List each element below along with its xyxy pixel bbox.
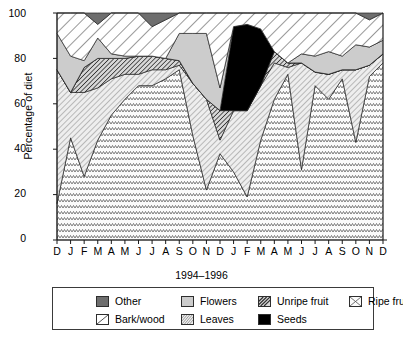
legend-swatch-ripe-fruit [349,296,362,307]
x-tick-label-17: M [281,246,295,257]
x-tick-label-12: D [213,246,227,257]
x-tick-label-21: S [335,246,349,257]
x-tick-label-19: J [308,246,322,257]
legend-item-leaves: Leaves [181,312,234,326]
legend-label-ripe-fruit: Ripe fruit [368,296,403,307]
x-tick-label-6: J [132,246,146,257]
legend-item-unripe-fruit: Unripe fruit [258,294,328,308]
x-tick-label-4: A [104,246,118,257]
legend-label-other: Other [115,296,141,307]
legend-item-ripe-fruit: Ripe fruit [349,294,403,308]
x-tick-label-16: A [267,246,281,257]
figure-stacked-area-chart: Percentage of diet 100 80 60 40 20 0 [0,0,403,338]
legend-swatch-unripe-fruit [258,296,271,307]
x-tick-label-8: A [159,246,173,257]
x-tick-label-20: A [322,246,336,257]
legend-swatch-other [96,296,109,307]
x-tick-label-0: D [50,246,64,257]
x-tick-label-10: O [186,246,200,257]
legend-label-unripe-fruit: Unripe fruit [277,296,328,307]
legend-label-seeds: Seeds [277,314,307,325]
legend-swatch-leaves [181,314,194,325]
x-tick-label-14: F [240,246,254,257]
x-tick-label-5: M [118,246,132,257]
x-tick-label-18: J [295,246,309,257]
x-tick-label-23: N [362,246,376,257]
x-tick-label-2: F [77,246,91,257]
legend-swatch-bark-wood [96,314,109,325]
x-tick-label-15: M [254,246,268,257]
legend-item-flowers: Flowers [181,294,237,308]
legend-label-leaves: Leaves [200,314,234,325]
x-tick-label-1: J [64,246,78,257]
legend-label-bark-wood: Bark/wood [115,314,165,325]
x-tick-label-13: J [227,246,241,257]
legend-item-seeds: Seeds [258,312,307,326]
x-tick-label-3: M [91,246,105,257]
legend-item-bark-wood: Bark/wood [96,312,165,326]
legend-item-other: Other [96,294,141,308]
x-axis-title: 1994–1996 [0,269,403,281]
legend-swatch-flowers [181,296,194,307]
x-tick-label-7: J [145,246,159,257]
legend: Other Flowers Unripe fruit Ripe fruit Ba… [52,287,374,330]
x-tick-label-24: D [376,246,390,257]
legend-swatch-seeds [258,314,271,325]
legend-label-flowers: Flowers [200,296,237,307]
x-tick-label-9: S [172,246,186,257]
x-tick-label-11: N [199,246,213,257]
x-tick-label-22: O [349,246,363,257]
